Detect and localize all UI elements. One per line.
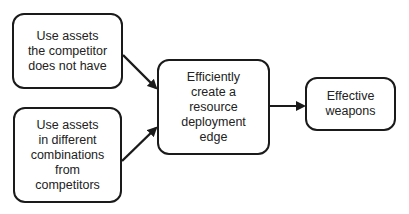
node-label: Use assets in different combinations fro… xyxy=(31,118,105,193)
node-label: Effective weapons xyxy=(325,89,375,119)
node-label: Efficiently create a resource deployment… xyxy=(181,70,246,145)
node-use-assets-competitor-lacks: Use assets the competitor does not have xyxy=(12,13,123,89)
node-effective-weapons: Effective weapons xyxy=(305,77,396,131)
arrow-n1-to-n3 xyxy=(123,55,156,88)
node-label: Use assets the competitor does not have xyxy=(28,29,107,74)
node-resource-deployment-edge: Efficiently create a resource deployment… xyxy=(157,59,270,155)
arrow-n2-to-n3 xyxy=(122,128,156,161)
node-use-assets-different-combinations: Use assets in different combinations fro… xyxy=(13,107,122,203)
